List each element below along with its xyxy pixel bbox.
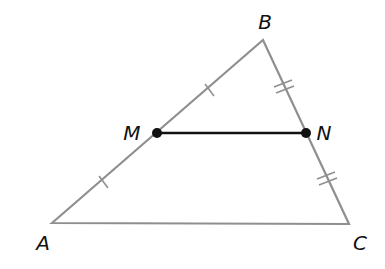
label-n: N xyxy=(317,123,332,143)
label-a: A xyxy=(36,233,50,253)
label-c: C xyxy=(353,233,367,253)
label-b: B xyxy=(258,12,272,32)
diagram-canvas: B M N A C xyxy=(0,0,385,269)
point-n xyxy=(301,128,311,138)
label-m: M xyxy=(123,123,140,143)
point-m xyxy=(152,128,162,138)
